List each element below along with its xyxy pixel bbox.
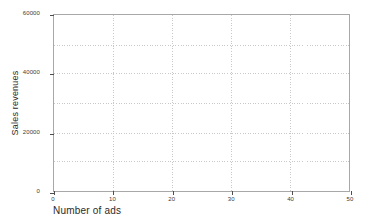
x-axis-tick-mark (292, 191, 293, 195)
y-axis-title: Sales revenues (10, 71, 20, 136)
x-axis-tick-label: 40 (276, 196, 306, 202)
y-axis-tick-label: 60000 (0, 10, 46, 16)
x-axis-tick-mark (351, 191, 352, 195)
x-axis-tick-label: 50 (335, 196, 365, 202)
x-axis-tick-mark (232, 191, 233, 195)
x-axis-tick-label: 20 (157, 196, 187, 202)
y-axis-tick-mark (50, 15, 54, 16)
y-axis-tick-mark (50, 134, 54, 135)
x-axis-tick-mark (113, 191, 114, 195)
x-axis-tick-label: 0 (38, 196, 68, 202)
x-axis-tick-mark (173, 191, 174, 195)
y-axis-tick-label: 40000 (0, 69, 46, 75)
y-axis-tick-mark (50, 74, 54, 75)
x-axis-title: Number of ads (53, 205, 121, 216)
y-axis-tick-label: 0 (0, 188, 46, 194)
y-axis-tick-label: 20000 (0, 129, 46, 135)
chart-figure: Sales revenues 0200004000060000 01020304… (0, 0, 370, 222)
x-axis-tick-mark (54, 191, 55, 195)
plot-area (53, 14, 350, 192)
gridlines (54, 15, 349, 191)
x-axis-tick-label: 30 (216, 196, 246, 202)
x-axis-tick-label: 10 (97, 196, 127, 202)
